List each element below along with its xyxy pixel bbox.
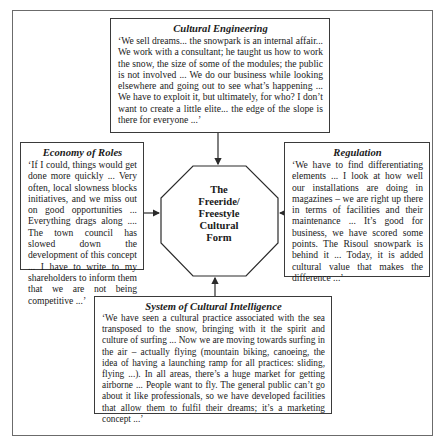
economy-of-roles-box: Economy of Roles ‘If I could, things wou…	[20, 142, 144, 270]
cultural-engineering-box: Cultural Engineering ‘We sell dreams... …	[110, 18, 330, 133]
box-title: System of Cultural Intelligence	[102, 300, 325, 313]
box-title: Economy of Roles	[28, 146, 137, 159]
regulation-box: Regulation ‘We have to find differentiat…	[284, 142, 430, 277]
box-quote: ‘If I could, things would get done more …	[28, 159, 137, 306]
box-quote: ‘We have seen a cultural practice associ…	[102, 313, 325, 425]
system-of-cultural-intelligence-box: System of Cultural Intelligence ‘We have…	[94, 296, 332, 414]
center-label: The Freeride/ Freestyle Cultural Form	[176, 184, 262, 244]
box-title: Regulation	[292, 146, 423, 159]
box-quote: ‘We sell dreams... the snowpark is an in…	[118, 35, 323, 125]
box-quote: ‘We have to find differentiating element…	[292, 159, 423, 283]
box-title: Cultural Engineering	[118, 22, 323, 35]
center-line-1: The	[176, 184, 262, 196]
center-line-4: Cultural	[176, 220, 262, 232]
center-line-2: Freeride/	[176, 196, 262, 208]
center-line-5: Form	[176, 232, 262, 244]
center-line-3: Freestyle	[176, 208, 262, 220]
